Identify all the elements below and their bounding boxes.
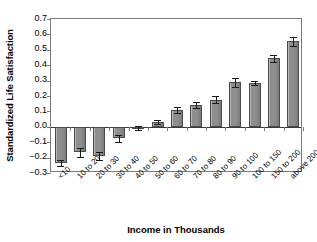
y-tick-label: 0.0 bbox=[34, 121, 47, 130]
error-bar-cap bbox=[290, 46, 297, 47]
error-bar-cap bbox=[154, 120, 161, 121]
y-tick-label: −0.1 bbox=[29, 137, 47, 146]
error-bar-cap bbox=[174, 107, 181, 108]
plot-area bbox=[50, 18, 302, 172]
y-tick-mark bbox=[47, 50, 51, 51]
x-tick-mark bbox=[70, 127, 71, 131]
error-bar bbox=[274, 55, 275, 62]
x-tick-mark bbox=[187, 127, 188, 131]
y-tick-label: −0.2 bbox=[29, 152, 47, 161]
error-bar bbox=[235, 78, 236, 87]
error-bar-cap bbox=[174, 113, 181, 114]
bar bbox=[55, 127, 67, 163]
y-tick-mark bbox=[47, 19, 51, 20]
error-bar-cap bbox=[135, 126, 142, 127]
error-bar bbox=[119, 135, 120, 142]
x-tick-mark bbox=[129, 127, 130, 131]
x-tick-mark bbox=[284, 127, 285, 131]
error-bar-cap bbox=[193, 108, 200, 109]
error-bar-cap bbox=[251, 81, 258, 82]
error-bar-cap bbox=[251, 85, 258, 86]
bar bbox=[287, 41, 299, 126]
x-tick-mark bbox=[245, 127, 246, 131]
error-bar bbox=[80, 148, 81, 157]
error-bar-cap bbox=[115, 135, 122, 136]
bar bbox=[229, 82, 241, 127]
bar-chart-figure: Standardized Life Satisfaction 0.70.60.5… bbox=[0, 0, 317, 242]
y-tick-mark bbox=[47, 34, 51, 35]
error-bar-cap bbox=[290, 37, 297, 38]
x-axis-category-labels: <1010 to 2020 to 3030 to 4040 to 5050 to… bbox=[50, 173, 302, 221]
y-tick-mark bbox=[47, 65, 51, 66]
x-tick-mark bbox=[225, 127, 226, 131]
error-bar-cap bbox=[212, 96, 219, 97]
y-tick-label: 0.6 bbox=[34, 29, 47, 38]
bar bbox=[249, 83, 261, 127]
error-bar-cap bbox=[193, 102, 200, 103]
y-tick-label: 0.2 bbox=[34, 91, 47, 100]
x-tick-mark bbox=[264, 127, 265, 131]
y-axis-title: Standardized Life Satisfaction bbox=[0, 0, 18, 190]
y-tick-mark bbox=[47, 127, 51, 128]
x-tick-mark bbox=[90, 127, 91, 131]
error-bar-cap bbox=[115, 142, 122, 143]
error-bar bbox=[216, 96, 217, 103]
x-tick-mark bbox=[167, 127, 168, 131]
y-axis-title-text: Standardized Life Satisfaction bbox=[4, 29, 15, 162]
x-axis-title: Income in Thousands bbox=[50, 224, 302, 235]
error-bar-cap bbox=[77, 148, 84, 149]
y-tick-label: 0.7 bbox=[34, 14, 47, 23]
error-bar-cap bbox=[96, 152, 103, 153]
y-axis-tick-labels: 0.70.60.50.40.30.20.10.0−0.1−0.2−0.3 bbox=[18, 0, 50, 242]
x-tick-mark bbox=[109, 127, 110, 131]
x-tick-mark bbox=[206, 127, 207, 131]
error-bar-cap bbox=[57, 160, 64, 161]
y-tick-mark bbox=[47, 142, 51, 143]
y-tick-label: 0.1 bbox=[34, 106, 47, 115]
y-tick-label: 0.3 bbox=[34, 75, 47, 84]
y-tick-mark bbox=[47, 158, 51, 159]
x-tick-mark bbox=[303, 127, 304, 131]
error-bar-cap bbox=[135, 130, 142, 131]
error-bar-cap bbox=[212, 103, 219, 104]
y-tick-mark bbox=[47, 111, 51, 112]
y-tick-label: 0.5 bbox=[34, 44, 47, 53]
error-bar-cap bbox=[270, 55, 277, 56]
error-bar bbox=[293, 37, 294, 46]
bar bbox=[268, 58, 280, 127]
error-bar-cap bbox=[270, 62, 277, 63]
error-bar-cap bbox=[232, 78, 239, 79]
error-bar-cap bbox=[77, 157, 84, 158]
y-tick-mark bbox=[47, 96, 51, 97]
y-tick-mark bbox=[47, 81, 51, 82]
y-tick-label: 0.4 bbox=[34, 60, 47, 69]
error-bar-cap bbox=[232, 87, 239, 88]
x-tick-mark bbox=[148, 127, 149, 131]
error-bar-cap bbox=[154, 124, 161, 125]
y-tick-label: −0.3 bbox=[29, 168, 47, 177]
